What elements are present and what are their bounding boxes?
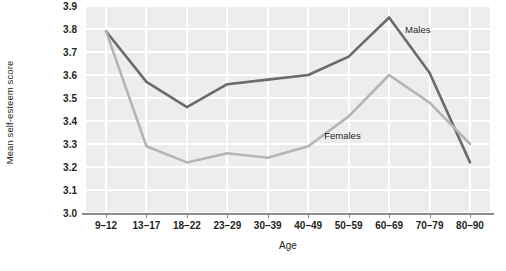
x-axis-tick-mark: [227, 215, 228, 218]
x-axis-tick-label: 13–17: [133, 220, 161, 231]
x-axis-tick-mark: [187, 215, 188, 218]
x-axis-tick-mark: [430, 215, 431, 218]
x-axis-tick-label: 80–90: [456, 220, 484, 231]
series-lines: [86, 6, 490, 213]
y-axis-tick-labels: 3.93.83.73.63.53.43.33.23.13.0: [20, 0, 82, 225]
x-axis-tick-mark: [146, 215, 147, 218]
x-axis-tick-mark: [349, 215, 350, 218]
x-axis-title: Age: [86, 240, 490, 251]
y-axis-tick-label: 3.7: [63, 47, 77, 58]
y-axis-tick-label: 3.1: [63, 185, 77, 196]
x-axis-title-text: Age: [279, 240, 297, 251]
x-axis-tick-label: 60–69: [375, 220, 403, 231]
series-line-males: [106, 18, 470, 163]
series-label-females: Females: [324, 130, 360, 141]
x-axis-tick-label: 70–79: [416, 220, 444, 231]
y-axis-tick-label: 3.4: [63, 116, 77, 127]
y-axis-tick-label: 3.9: [63, 1, 77, 12]
x-axis-tick-label: 40–49: [294, 220, 322, 231]
y-axis-title-text: Mean self-esteem score: [5, 61, 16, 165]
y-axis-tick-label: 3.0: [63, 208, 77, 219]
x-axis-tick-label: 18–22: [173, 220, 201, 231]
y-axis-tick-label: 3.8: [63, 24, 77, 35]
y-axis-tick-label: 3.5: [63, 93, 77, 104]
y-axis-tick-label: 3.6: [63, 70, 77, 81]
x-axis-tick-mark: [106, 215, 107, 218]
series-line-females: [106, 31, 470, 162]
y-axis-title: Mean self-esteem score: [0, 0, 20, 225]
y-axis-tick-label: 3.3: [63, 139, 77, 150]
x-axis-tick-label: 23–29: [213, 220, 241, 231]
x-axis-tick-label: 50–59: [335, 220, 363, 231]
x-axis-tick-mark: [470, 215, 471, 218]
plot-area: [86, 6, 490, 213]
series-label-males: Males: [405, 24, 430, 35]
y-axis-tick-label: 3.2: [63, 162, 77, 173]
x-axis-line: [82, 213, 494, 215]
x-axis-tick-mark: [308, 215, 309, 218]
x-axis-tick-mark: [389, 215, 390, 218]
x-axis-tick-label: 9–12: [95, 220, 117, 231]
x-axis-tick-mark: [268, 215, 269, 218]
x-axis-tick-label: 30–39: [254, 220, 282, 231]
chart-figure: Mean self-esteem score 3.93.83.73.63.53.…: [0, 0, 506, 271]
